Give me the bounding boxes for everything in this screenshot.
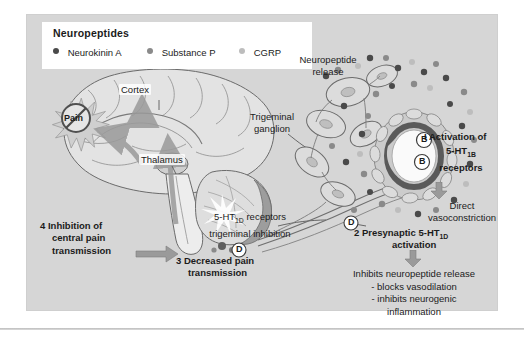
receptor-note-line1-sub: 1D (235, 217, 244, 224)
legend-item-neurokinin-a: Neurokinin A (53, 46, 122, 58)
step-2-effect-bullet-1: - blocks vasodilation (371, 281, 457, 292)
step-1-line3: receptors (439, 162, 482, 173)
receptor-note-line1-pre: 5-HT (214, 211, 235, 222)
legend-label-cgrp: CGRP (254, 47, 281, 58)
annotation-step-2-effect: Inhibits neuropeptide release - blocks v… (326, 268, 502, 318)
annotation-step-1: I Activation of (424, 130, 502, 143)
annotation-step-4: 4 Inhibition of (40, 219, 102, 232)
step2-down-arrow (404, 250, 422, 268)
annotation-receptor-note: 5-HT1D receptors trigeminal inhibition (184, 210, 316, 240)
legend-item-substance-p: Substance P (147, 46, 216, 58)
legend-label-substance-p: Substance P (162, 47, 216, 58)
step-1-effect-line2: vasoconstriction (428, 212, 496, 223)
annotation-step-3: 3 Decreased pain (176, 254, 254, 267)
annotation-step-4-line3: transmission (52, 245, 111, 256)
step-1-line1: Activation of (429, 131, 487, 142)
label-thalamus: Thalamus (139, 154, 185, 165)
step-1-line2-sub: 1B (467, 151, 476, 158)
label-trigeminal-line2: ganglion (254, 123, 290, 134)
step-3-line1: Decreased pain (184, 255, 254, 266)
step-2-number: 2 (354, 227, 359, 238)
migraine-mechanism-figure: Neuropeptides Neurokinin A Substance P C… (26, 14, 498, 311)
neuropeptides-legend: Neuropeptides Neurokinin A Substance P C… (42, 22, 312, 69)
label-neuropeptide-release-line2: release (312, 66, 343, 77)
step-1-number: I (424, 131, 427, 142)
label-cortex: Cortex (119, 84, 151, 95)
step1-down-arrow (430, 182, 448, 200)
step4-arrow (136, 246, 178, 262)
annotation-step-3-line2: transmission (188, 267, 247, 278)
legend-title: Neuropeptides (53, 27, 129, 39)
label-pain-burst: Pain (64, 113, 83, 123)
annotation-step-1-effect: Direct vasoconstriction (412, 200, 512, 224)
step-1-effect-line1: Direct (450, 200, 475, 211)
bottom-divider (0, 328, 524, 330)
legend-items: Neurokinin A Substance P CGRP (53, 46, 303, 62)
step-2-line1-pre: Presynaptic 5-HT (362, 227, 440, 238)
step-3-number: 3 (176, 255, 181, 266)
figure-page: Neuropeptides Neurokinin A Substance P C… (0, 0, 524, 339)
label-trigeminal-ganglion: Trigeminal ganglion (230, 111, 314, 135)
label-neuropeptide-release: Neuropeptide release (282, 54, 374, 78)
legend-dot-light (239, 48, 245, 54)
legend-dot-dark (53, 48, 59, 54)
annotation-step-2-line2: activation (392, 239, 436, 250)
receptor-note-line1-post: receptors (244, 211, 286, 222)
step-1-line2-pre: 5-HT (446, 145, 467, 156)
annotation-step-4-line2: central pain (52, 232, 105, 243)
step-4-number: 4 (40, 220, 45, 231)
label-neuropeptide-release-line1: Neuropeptide (299, 54, 356, 65)
receptor-note-line2: trigeminal inhibition (209, 228, 290, 239)
step-2-effect-bullet-2: - inhibits neurogenic (371, 293, 456, 304)
legend-dot-medium (147, 48, 153, 54)
step-2-effect-bullet-3: inflammation (387, 306, 441, 317)
step-2-effect-title: Inhibits neuropeptide release (353, 268, 475, 279)
annotation-step-1-receptor: 5-HT1B receptors (422, 144, 500, 174)
label-receptor-d-brainstem: D (236, 244, 243, 254)
legend-label-neurokinin-a: Neurokinin A (68, 47, 122, 58)
step-2-line1-sub: 1D (440, 233, 449, 240)
legend-item-cgrp: CGRP (239, 46, 281, 58)
step-4-line1: Inhibition of (48, 220, 102, 231)
label-trigeminal-line1: Trigeminal (250, 111, 294, 122)
